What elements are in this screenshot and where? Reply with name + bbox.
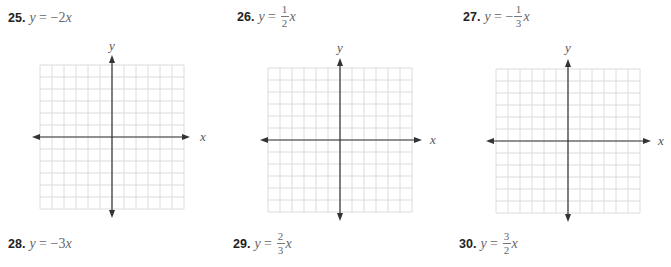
eq-var: x <box>65 10 71 26</box>
equation: y = − 13x <box>484 4 529 29</box>
numerator: 2 <box>278 231 284 242</box>
eq-sign: = <box>39 236 47 252</box>
problem-29-label: 29. y = 23x <box>233 231 292 256</box>
problem-30-label: 30. y = 32x <box>459 231 518 256</box>
fraction: 13 <box>514 4 522 29</box>
x-axis-label: x <box>430 132 436 148</box>
fraction: 23 <box>277 231 285 256</box>
eq-sign: = <box>494 9 502 25</box>
eq-var: x <box>512 236 518 252</box>
axes <box>263 63 417 215</box>
problem-25-label: 25. y = −2x <box>8 10 72 26</box>
problem-number: 26. <box>237 10 254 24</box>
x-axis-label: x <box>200 129 206 145</box>
numerator: 1 <box>516 4 522 15</box>
equation: y = 32x <box>480 231 517 256</box>
problem-number: 30. <box>459 237 476 251</box>
eq-lhs: y <box>484 9 490 25</box>
problem-28-label: 28. y = −3x <box>8 236 72 252</box>
equation: y = 12x <box>258 4 295 29</box>
x-axis-label: x <box>658 133 664 149</box>
coordinate-grid-25[interactable] <box>28 52 198 222</box>
axes <box>489 64 646 216</box>
eq-var: x <box>290 9 296 25</box>
eq-var: x <box>286 236 292 252</box>
eq-sign: = <box>264 236 272 252</box>
y-axis-label: y <box>109 38 115 54</box>
problem-26-label: 26. y = 12x <box>237 4 296 29</box>
y-axis-label: y <box>565 40 571 56</box>
coordinate-grid-26[interactable] <box>256 55 426 225</box>
problem-number: 29. <box>233 237 250 251</box>
problem-27-label: 27. y = − 13x <box>463 4 530 29</box>
coordinate-grid-27[interactable] <box>484 56 659 226</box>
denominator: 2 <box>282 18 288 29</box>
eq-sign: = <box>39 10 47 26</box>
eq-coef: − <box>506 9 514 25</box>
problem-number: 27. <box>463 10 480 24</box>
axes <box>35 60 185 212</box>
eq-lhs: y <box>29 10 35 26</box>
eq-sign: = <box>268 9 276 25</box>
denominator: 2 <box>504 245 510 256</box>
problem-number: 25. <box>8 11 25 25</box>
eq-coef: −3 <box>51 236 66 252</box>
problem-number: 28. <box>8 237 25 251</box>
eq-lhs: y <box>29 236 35 252</box>
eq-var: x <box>65 236 71 252</box>
denominator: 3 <box>278 245 284 256</box>
equation: y = −3x <box>29 236 71 252</box>
fraction: 12 <box>281 4 289 29</box>
numerator: 3 <box>504 231 510 242</box>
eq-lhs: y <box>254 236 260 252</box>
eq-coef: −2 <box>51 10 66 26</box>
eq-lhs: y <box>258 9 264 25</box>
equation: y = 23x <box>254 231 291 256</box>
eq-var: x <box>523 9 529 25</box>
fraction: 32 <box>503 231 511 256</box>
denominator: 3 <box>516 18 522 29</box>
equation: y = −2x <box>29 10 71 26</box>
eq-sign: = <box>490 236 498 252</box>
eq-lhs: y <box>480 236 486 252</box>
numerator: 1 <box>282 4 288 15</box>
y-axis-label: y <box>337 40 343 56</box>
